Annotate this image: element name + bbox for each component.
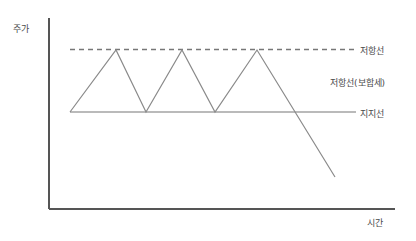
support-line-label: 지지선 xyxy=(360,107,384,120)
chart-screenshot: 주가 시간 저항선 저항선(보합세) 지지선 xyxy=(0,0,416,241)
resistance-line-label: 저항선 xyxy=(360,44,384,57)
price-line xyxy=(70,50,335,177)
x-axis-label: 시간 xyxy=(367,216,383,229)
y-axis-label: 주가 xyxy=(13,22,29,35)
consolidation-label: 저항선(보합세) xyxy=(330,76,385,89)
stock-pattern-chart xyxy=(0,0,416,241)
